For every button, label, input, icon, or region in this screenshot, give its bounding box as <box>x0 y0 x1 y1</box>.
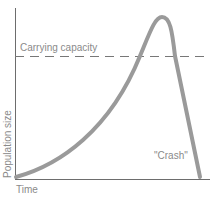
carrying-capacity-label: Carrying capacity <box>20 42 97 53</box>
crash-annotation: "Crash" <box>154 150 188 161</box>
y-axis-label: Population size <box>2 110 13 178</box>
population-crash-chart: Carrying capacity "Crash" Time Populatio… <box>0 0 210 201</box>
x-axis-label: Time <box>16 184 38 195</box>
